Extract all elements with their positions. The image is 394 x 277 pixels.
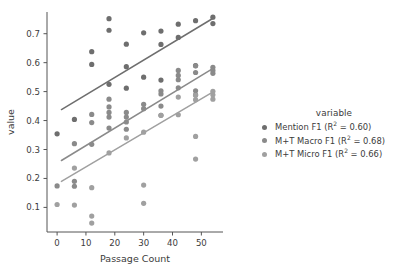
data-point <box>158 77 163 82</box>
data-point <box>193 97 198 102</box>
data-point <box>89 220 94 225</box>
data-point <box>176 112 181 117</box>
data-point <box>141 106 146 111</box>
data-point <box>176 95 181 100</box>
y-tick-label: 0.3 <box>26 145 40 155</box>
x-tick-label: 20 <box>109 238 120 248</box>
y-tick-label: 0.4 <box>26 116 40 126</box>
data-point <box>176 85 181 90</box>
data-point <box>210 97 215 102</box>
x-tick-label: 0 <box>54 238 59 248</box>
x-tick-label: 40 <box>167 238 178 248</box>
trend-line-series-1 <box>61 68 214 161</box>
legend-entry[interactable]: M+T Macro F1 (R2 = 0.68) <box>262 136 394 146</box>
data-point <box>176 77 181 82</box>
data-point <box>176 22 181 27</box>
data-point <box>141 201 146 206</box>
data-point <box>176 68 181 73</box>
x-axis-title: Passage Count <box>100 253 170 264</box>
data-point <box>124 114 129 119</box>
data-point <box>54 183 59 188</box>
data-point <box>124 135 129 140</box>
data-point <box>72 117 77 122</box>
data-point <box>106 114 111 119</box>
legend-entry-label: M+T Macro F1 (R2 = 0.68) <box>275 136 385 146</box>
trend-line-series-2 <box>61 91 214 181</box>
scatter-plot-figure: 0.10.20.30.40.50.60.701020304050Passage … <box>0 0 394 277</box>
data-point <box>54 202 59 207</box>
legend-entry[interactable]: M+T Micro F1 (R2 = 0.66) <box>262 149 394 159</box>
data-point <box>141 183 146 188</box>
trend-line-series-0 <box>61 18 214 110</box>
y-tick-label: 0.6 <box>26 58 40 68</box>
data-point <box>106 150 111 155</box>
data-point <box>89 213 94 218</box>
data-point <box>176 35 181 40</box>
x-tick-label: 50 <box>196 238 207 248</box>
data-point <box>72 165 77 170</box>
data-point <box>72 141 77 146</box>
data-point <box>89 62 94 67</box>
series-points-0 <box>54 15 215 137</box>
data-point <box>89 112 94 117</box>
data-point <box>124 86 129 91</box>
data-point <box>193 63 198 68</box>
data-point <box>158 91 163 96</box>
data-point <box>124 119 129 124</box>
data-point <box>124 42 129 47</box>
data-point <box>89 120 94 125</box>
x-tick-label: 30 <box>138 238 149 248</box>
data-point <box>193 134 198 139</box>
legend-entry[interactable]: Mention F1 (R2 = 0.60) <box>262 122 394 132</box>
data-point <box>193 70 198 75</box>
y-tick-label: 0.7 <box>26 29 40 39</box>
legend-marker-icon <box>262 138 267 143</box>
legend-title: variable <box>274 108 394 118</box>
data-point <box>141 75 146 80</box>
legend-entry-list: Mention F1 (R2 = 0.60)M+T Macro F1 (R2 =… <box>262 122 394 159</box>
y-tick-label: 0.1 <box>26 202 40 212</box>
chart-legend: variable Mention F1 (R2 = 0.60)M+T Macro… <box>262 108 394 163</box>
data-point <box>124 64 129 69</box>
legend-entry-label: Mention F1 (R2 = 0.60) <box>275 122 371 132</box>
data-point <box>193 156 198 161</box>
data-point <box>106 28 111 33</box>
data-point <box>72 179 77 184</box>
legend-marker-icon <box>262 125 267 130</box>
data-point <box>89 142 94 147</box>
data-point <box>106 97 111 102</box>
data-point <box>210 71 215 76</box>
data-point <box>106 82 111 87</box>
data-point <box>106 125 111 130</box>
data-point <box>89 49 94 54</box>
data-point <box>106 16 111 21</box>
data-point <box>210 15 215 20</box>
data-point <box>124 127 129 132</box>
data-point <box>158 113 163 118</box>
data-point <box>72 202 77 207</box>
data-point <box>158 103 163 108</box>
data-point <box>158 42 163 47</box>
data-point <box>106 110 111 115</box>
x-tick-label: 10 <box>80 238 91 248</box>
data-point <box>210 21 215 26</box>
data-point <box>141 30 146 35</box>
y-axis-title: value <box>5 109 16 135</box>
data-point <box>124 110 129 115</box>
data-point <box>89 185 94 190</box>
legend-entry-label: M+T Micro F1 (R2 = 0.66) <box>275 149 382 159</box>
data-point <box>158 29 163 34</box>
data-point <box>141 130 146 135</box>
data-point <box>54 131 59 136</box>
data-point <box>72 184 77 189</box>
data-point <box>106 104 111 109</box>
y-tick-label: 0.5 <box>26 87 40 97</box>
series-points-2 <box>54 89 215 226</box>
legend-marker-icon <box>262 152 267 157</box>
y-tick-label: 0.2 <box>26 173 40 183</box>
data-point <box>193 18 198 23</box>
